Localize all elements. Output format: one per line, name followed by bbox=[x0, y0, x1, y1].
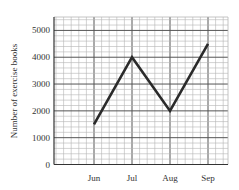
x-tick-label: Sep bbox=[201, 173, 215, 183]
y-axis-label: Number of exercise books bbox=[9, 43, 19, 138]
y-tick-label: 2000 bbox=[32, 106, 51, 116]
x-tick-label: Aug bbox=[162, 173, 178, 183]
x-tick-label: Jul bbox=[127, 173, 138, 183]
y-tick-label: 3000 bbox=[32, 79, 51, 89]
y-tick-label: 5000 bbox=[32, 25, 51, 35]
y-axis-ticks: 010002000300040005000 bbox=[32, 25, 51, 169]
x-axis-ticks: JunJulAugSep bbox=[88, 173, 216, 183]
x-tick-label: Jun bbox=[88, 173, 101, 183]
y-tick-label: 0 bbox=[46, 160, 51, 170]
y-tick-label: 1000 bbox=[32, 133, 51, 143]
grid bbox=[54, 17, 228, 165]
line-chart: 010002000300040005000 JunJulAugSep Numbe… bbox=[0, 0, 239, 190]
y-tick-label: 4000 bbox=[32, 52, 51, 62]
